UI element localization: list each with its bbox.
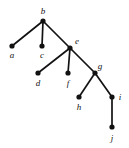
node-label-i: i bbox=[119, 92, 122, 102]
node-label-f: f bbox=[67, 78, 71, 88]
edge-b-a bbox=[12, 21, 43, 46]
labels-group: abcdefghij bbox=[10, 6, 122, 143]
edge-g-i bbox=[95, 73, 112, 97]
node-label-a: a bbox=[10, 50, 15, 60]
tree-diagram-figure: abcdefghij bbox=[0, 0, 129, 148]
node-label-d: d bbox=[36, 78, 41, 88]
edge-b-e bbox=[43, 21, 70, 48]
node-e bbox=[67, 45, 72, 50]
graph-canvas: abcdefghij bbox=[0, 0, 129, 148]
node-label-b: b bbox=[41, 6, 46, 16]
node-label-h: h bbox=[77, 102, 82, 112]
node-label-j: j bbox=[110, 133, 114, 143]
node-h bbox=[76, 94, 81, 99]
edge-b-c bbox=[42, 21, 43, 46]
node-c bbox=[39, 43, 44, 48]
node-j bbox=[109, 124, 114, 129]
node-label-e: e bbox=[75, 36, 79, 46]
node-g bbox=[92, 70, 97, 75]
node-i bbox=[109, 94, 114, 99]
edge-e-f bbox=[68, 48, 70, 73]
node-label-c: c bbox=[40, 50, 44, 60]
node-b bbox=[40, 18, 45, 23]
node-d bbox=[35, 70, 40, 75]
node-label-g: g bbox=[98, 61, 103, 71]
node-a bbox=[9, 43, 14, 48]
edge-e-g bbox=[70, 48, 95, 73]
node-f bbox=[65, 70, 70, 75]
edge-g-h bbox=[79, 73, 95, 97]
